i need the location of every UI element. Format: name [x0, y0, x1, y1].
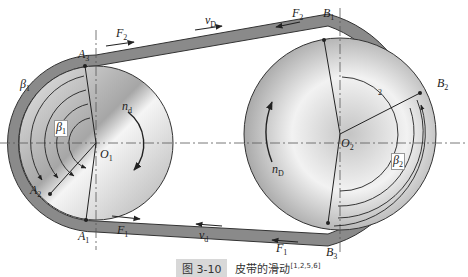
label-beta1-outer: β1 [20, 78, 30, 93]
label-nD: nD [272, 163, 284, 178]
label-small-2: 2 [378, 89, 382, 97]
label-F2-left: F2 [116, 27, 127, 42]
label-beta2: β2 [391, 153, 405, 170]
label-F2-right: F2 [292, 7, 303, 22]
label-A3: A3 [78, 48, 89, 63]
label-nd: nd [122, 100, 132, 115]
label-O2: O2 [341, 137, 354, 152]
label-A2: A2 [30, 184, 41, 199]
figure-caption: 图 3-10 皮带的滑动[1,2,5,6] [176, 261, 320, 275]
label-vd: vd [199, 229, 208, 244]
label-A1: A1 [78, 230, 89, 245]
label-F1-left: F1 [117, 224, 128, 239]
label-F1-right: F1 [276, 242, 287, 257]
label-B2: B2 [437, 77, 448, 92]
label-O1: O1 [100, 148, 113, 163]
label-B3: B3 [326, 246, 337, 261]
label-vD: vD [205, 14, 216, 29]
label-B1: B1 [323, 7, 334, 22]
figure-title: 皮带的滑动[1,2,5,6] [235, 260, 320, 276]
label-beta1-inner: β1 [54, 120, 68, 137]
figure-number: 图 3-10 [176, 259, 227, 277]
